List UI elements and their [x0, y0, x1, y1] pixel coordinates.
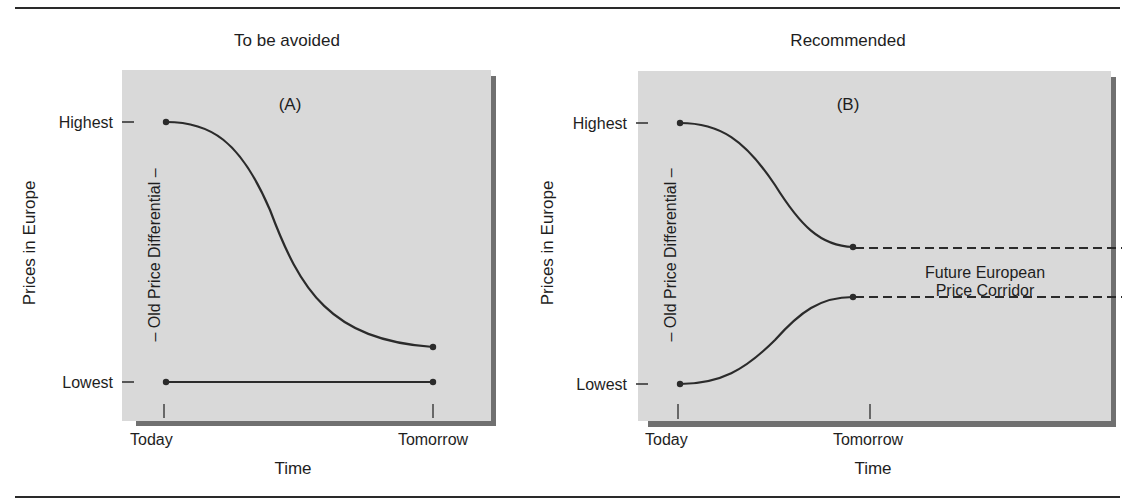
panel-a-title: To be avoided: [234, 31, 340, 50]
panel-a-differential-label: – Old Price Differential –: [146, 168, 163, 341]
panel-a-x-axis-title: Time: [274, 459, 311, 478]
panel-a-point: [163, 379, 169, 385]
panel-a-y-tick-lowest: Lowest: [62, 374, 113, 391]
panel-b-y-tick-lowest: Lowest: [576, 376, 627, 393]
panel-a-x-label-today: Today: [130, 431, 173, 448]
panel-a: To be avoided (A) Prices in Europe Highe…: [20, 31, 496, 478]
panel-b-x-axis-title: Time: [854, 459, 891, 478]
panel-b-label: (B): [837, 95, 860, 114]
panel-a-point: [163, 119, 169, 125]
panel-b-differential-label: – Old Price Differential –: [662, 168, 679, 341]
panel-b-point: [850, 244, 856, 250]
corridor-label-line1: Future European: [925, 264, 1045, 281]
panel-a-point: [430, 344, 436, 350]
panel-a-y-axis-title: Prices in Europe: [20, 181, 39, 306]
panel-b-x-label-today: Today: [645, 431, 688, 448]
panel-b-box: [638, 71, 1111, 421]
panel-a-point: [430, 379, 436, 385]
panel-b-title: Recommended: [790, 31, 905, 50]
panel-b-point: [677, 120, 683, 126]
corridor-label-line2: Price Corridor: [936, 282, 1035, 299]
panel-a-y-tick-highest: Highest: [59, 114, 114, 131]
panel-a-x-label-tomorrow: Tomorrow: [398, 431, 469, 448]
panel-b-point: [850, 294, 856, 300]
price-corridor-figure: To be avoided (A) Prices in Europe Highe…: [0, 0, 1133, 503]
panel-b-point: [677, 381, 683, 387]
panel-b-y-tick-highest: Highest: [573, 115, 628, 132]
panel-b-x-label-tomorrow: Tomorrow: [833, 431, 904, 448]
panel-b: Recommended (B) Prices in Europe Highest…: [538, 31, 1122, 478]
panel-b-y-axis-title: Prices in Europe: [538, 181, 557, 306]
panel-a-label: (A): [279, 95, 302, 114]
